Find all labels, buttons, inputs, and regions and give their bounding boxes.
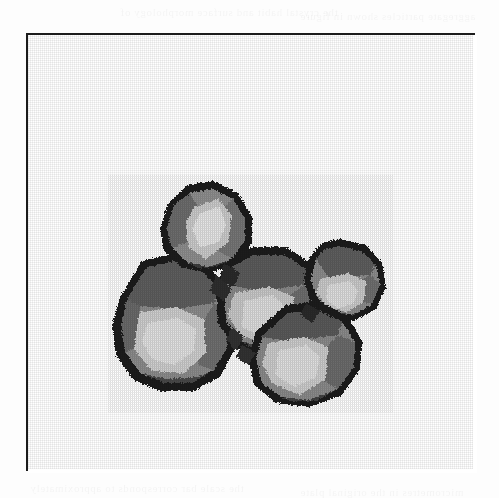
- crystal-cluster-image: [28, 35, 477, 473]
- ghost-text-line: the crystal habit and surface morphology…: [120, 6, 338, 18]
- scanned-page: the crystal habit and surface morphology…: [0, 0, 499, 498]
- ghost-text-line: the scale bar corresponds to approximate…: [30, 482, 244, 494]
- figure-frame: Cluster of five faceted polyhedral cryst…: [26, 33, 475, 471]
- ghost-text-line: micrometres in the original plate: [300, 486, 463, 498]
- ghost-text-line: aggregate particles shown in figure: [300, 10, 476, 22]
